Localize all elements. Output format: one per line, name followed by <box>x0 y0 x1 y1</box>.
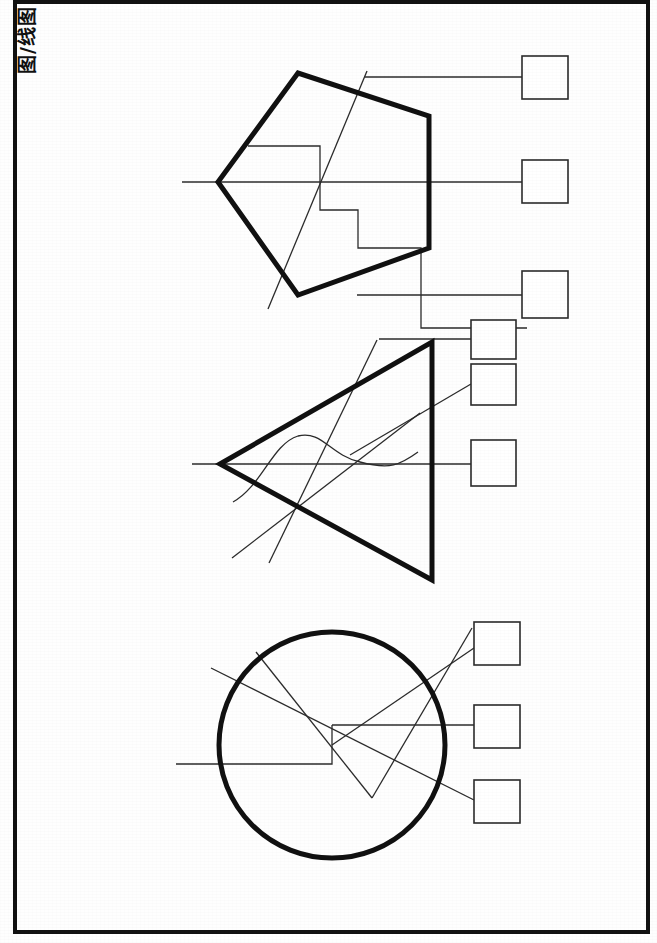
circle-diagram <box>176 622 520 858</box>
circle-step-path <box>176 725 332 764</box>
triangle-group-shape <box>220 342 432 580</box>
triangle-diagram <box>192 320 516 580</box>
callout-box[interactable] <box>522 56 568 99</box>
callout-box[interactable] <box>474 622 520 665</box>
pentagon-group-shape <box>218 73 429 295</box>
rotated-sheet-caption: 图/线图 <box>16 0 38 74</box>
leader-5 <box>350 384 471 455</box>
callout-box[interactable] <box>474 705 520 748</box>
callout-box[interactable] <box>522 271 568 318</box>
leader-7 <box>332 648 474 745</box>
drawing-sheet: 图/线图 <box>0 0 657 943</box>
drawing-canvas <box>0 0 657 943</box>
sheet-border-frame <box>15 2 648 932</box>
pentagon-diagram <box>182 56 568 328</box>
callout-box[interactable] <box>471 364 516 405</box>
callout-box[interactable] <box>522 160 568 203</box>
callout-box[interactable] <box>471 320 516 359</box>
callout-box[interactable] <box>474 780 520 823</box>
leader-9 <box>211 668 474 800</box>
step-path <box>248 146 527 328</box>
steep-line <box>269 340 377 563</box>
v-line-right <box>372 628 472 798</box>
callout-box[interactable] <box>471 440 516 486</box>
